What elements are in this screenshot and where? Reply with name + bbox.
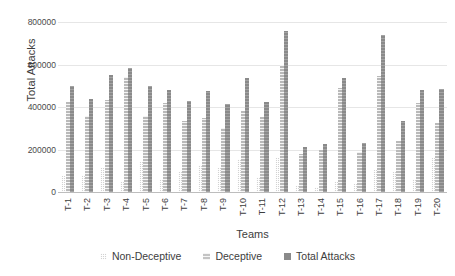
bar-t-18-total-attacks	[401, 121, 405, 192]
bar-t-13-total-attacks	[303, 147, 307, 192]
bar-group	[233, 22, 252, 192]
x-tick-label: T-2	[82, 198, 92, 211]
y-tick-label: 0	[8, 187, 56, 197]
bar-group	[214, 22, 233, 192]
x-axis-title: Teams	[58, 228, 447, 240]
legend-item-non-deceptive[interactable]: Non-Deceptive	[100, 250, 181, 262]
bar-t-20-total-attacks	[439, 89, 443, 192]
legend-label: Deceptive	[215, 250, 262, 262]
bar-group	[389, 22, 408, 192]
bar-t-7-total-attacks	[187, 101, 191, 192]
x-tick-label: T-9	[218, 198, 228, 211]
x-tick-cell: T-3	[97, 196, 116, 228]
bar-group	[116, 22, 135, 192]
x-tick-label: T-13	[296, 198, 306, 216]
x-tick-cell: T-17	[369, 196, 388, 228]
x-tick-label: T-1	[63, 198, 73, 211]
x-tick-label: T-10	[238, 198, 248, 216]
x-tick-label: T-3	[102, 198, 112, 211]
x-tick-cell: T-16	[350, 196, 369, 228]
legend-swatch-icon	[203, 253, 210, 260]
y-axis-ticks: 8000006000004000002000000	[0, 0, 56, 276]
bar-group	[77, 22, 96, 192]
x-tick-cell: T-4	[116, 196, 135, 228]
bar-t-16-total-attacks	[362, 143, 366, 192]
bar-group	[175, 22, 194, 192]
x-tick-label: T-11	[257, 198, 267, 215]
bar-t-14-total-attacks	[323, 144, 327, 192]
x-tick-label: T-19	[413, 198, 423, 216]
legend-swatch-icon	[100, 253, 107, 260]
bar-t-10-total-attacks	[245, 78, 249, 192]
x-tick-label: T-16	[355, 198, 365, 216]
bar-group	[408, 22, 427, 192]
x-axis-ticks: T-1T-2T-3T-4T-5T-6T-7T-8T-9T-10T-11T-12T…	[58, 196, 447, 228]
x-tick-cell: T-10	[233, 196, 252, 228]
bar-t-17-total-attacks	[381, 35, 385, 192]
bar-group	[136, 22, 155, 192]
x-tick-cell: T-20	[428, 196, 447, 228]
x-tick-cell: T-18	[389, 196, 408, 228]
bar-group	[272, 22, 291, 192]
x-tick-label: T-18	[393, 198, 403, 216]
axis-baseline	[58, 192, 447, 193]
chart-legend: Non-DeceptiveDeceptiveTotal Attacks	[0, 250, 455, 262]
bar-group	[291, 22, 310, 192]
legend-label: Non-Deceptive	[112, 250, 181, 262]
bar-group	[311, 22, 330, 192]
x-tick-cell: T-13	[291, 196, 310, 228]
bar-t-5-total-attacks	[148, 86, 152, 192]
bar-t-3-total-attacks	[109, 75, 113, 192]
bar-group	[330, 22, 349, 192]
x-tick-label: T-8	[199, 198, 209, 211]
x-tick-cell: T-6	[155, 196, 174, 228]
x-tick-label: T-20	[432, 198, 442, 216]
bar-group	[350, 22, 369, 192]
x-tick-label: T-14	[316, 198, 326, 216]
bar-t-9-total-attacks	[225, 104, 229, 192]
x-tick-label: T-17	[374, 198, 384, 216]
x-tick-cell: T-8	[194, 196, 213, 228]
bar-t-2-total-attacks	[89, 99, 93, 193]
bar-t-4-total-attacks	[128, 68, 132, 192]
bar-groups	[58, 22, 447, 192]
bar-t-19-total-attacks	[420, 90, 424, 192]
legend-label: Total Attacks	[296, 250, 355, 262]
x-tick-cell: T-7	[175, 196, 194, 228]
x-tick-cell: T-12	[272, 196, 291, 228]
x-tick-cell: T-19	[408, 196, 427, 228]
bar-t-1-total-attacks	[70, 86, 74, 192]
x-tick-cell: T-2	[77, 196, 96, 228]
bar-group	[369, 22, 388, 192]
bar-t-6-total-attacks	[167, 90, 171, 192]
x-tick-label: T-15	[335, 198, 345, 216]
x-tick-label: T-4	[121, 198, 131, 211]
bar-chart: Total Attacks 8000006000004000002000000 …	[0, 0, 455, 276]
bar-t-15-total-attacks	[342, 78, 346, 192]
x-tick-cell: T-9	[214, 196, 233, 228]
x-tick-cell: T-15	[330, 196, 349, 228]
x-tick-label: T-12	[277, 198, 287, 216]
legend-swatch-icon	[284, 253, 291, 260]
bar-t-11-total-attacks	[264, 102, 268, 192]
bar-group	[97, 22, 116, 192]
bar-t-12-total-attacks	[284, 31, 288, 193]
x-tick-label: T-5	[141, 198, 151, 211]
x-tick-label: T-7	[179, 198, 189, 211]
x-tick-cell: T-5	[136, 196, 155, 228]
bar-group	[428, 22, 447, 192]
bar-group	[155, 22, 174, 192]
legend-item-deceptive[interactable]: Deceptive	[203, 250, 262, 262]
legend-item-total-attacks[interactable]: Total Attacks	[284, 250, 355, 262]
y-tick-label: 800000	[8, 17, 56, 27]
x-tick-cell: T-14	[311, 196, 330, 228]
plot-area	[58, 22, 447, 192]
bar-group	[253, 22, 272, 192]
bar-t-8-total-attacks	[206, 91, 210, 192]
y-tick-label: 600000	[8, 60, 56, 70]
y-tick-label: 400000	[8, 102, 56, 112]
x-tick-cell: T-11	[253, 196, 272, 228]
x-tick-label: T-6	[160, 198, 170, 211]
bar-group	[194, 22, 213, 192]
bar-group	[58, 22, 77, 192]
